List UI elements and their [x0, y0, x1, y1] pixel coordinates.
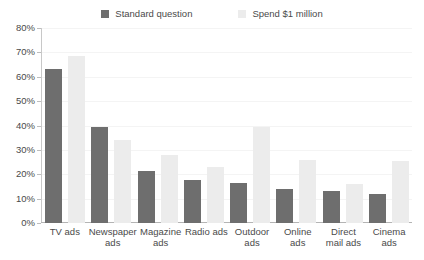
bar[interactable]: [323, 191, 340, 223]
y-tick-mark: [37, 199, 41, 200]
bar-group: [227, 28, 273, 223]
bar-group: [366, 28, 412, 223]
bar[interactable]: [276, 189, 293, 223]
bar-group: [135, 28, 181, 223]
x-axis-label: Outdoor ads: [229, 226, 275, 258]
y-tick-mark: [37, 174, 41, 175]
bar[interactable]: [253, 127, 270, 223]
y-tick-mark: [37, 126, 41, 127]
bar[interactable]: [346, 184, 363, 223]
y-tick-label: 20%: [16, 170, 35, 180]
y-tick-label: 70%: [16, 48, 35, 58]
bar[interactable]: [45, 69, 62, 223]
y-tick-label: 50%: [16, 96, 35, 106]
y-tick-label: 40%: [16, 121, 35, 131]
legend-item-spend-1-million: Spend $1 million: [238, 9, 322, 19]
bar[interactable]: [230, 183, 247, 223]
legend-swatch-spend-1-million: [238, 10, 246, 18]
x-axis-label: Direct mail ads: [321, 226, 367, 258]
bar[interactable]: [392, 161, 409, 223]
x-axis-label: Radio ads: [183, 226, 229, 258]
y-tick-label: 10%: [16, 194, 35, 204]
y-tick-label: 60%: [16, 72, 35, 82]
y-tick-mark: [37, 28, 41, 29]
bar-group: [88, 28, 134, 223]
legend-item-standard-question: Standard question: [101, 9, 192, 19]
bar[interactable]: [207, 167, 224, 223]
y-tick-mark: [37, 101, 41, 102]
bar[interactable]: [114, 140, 131, 223]
bar-group: [320, 28, 366, 223]
plot-area: 80%70%60%50%40%30%20%10%0%: [41, 28, 412, 223]
bar[interactable]: [138, 171, 155, 223]
x-axis-label: Cinema ads: [366, 226, 412, 258]
x-axis-label: Online ads: [275, 226, 321, 258]
bar-group: [273, 28, 319, 223]
bar[interactable]: [91, 127, 108, 223]
bar[interactable]: [299, 160, 316, 223]
bar[interactable]: [161, 155, 178, 223]
legend-swatch-standard-question: [101, 10, 109, 18]
bars-layer: [42, 28, 412, 223]
bar-group: [42, 28, 88, 223]
x-axis-label: Newspaper ads: [88, 226, 138, 258]
bar[interactable]: [369, 194, 386, 223]
legend-label-standard-question: Standard question: [115, 9, 192, 19]
bar[interactable]: [184, 180, 201, 223]
legend-label-spend-1-million: Spend $1 million: [252, 9, 322, 19]
bar-group: [181, 28, 227, 223]
y-tick-mark: [37, 77, 41, 78]
chart-legend: Standard question Spend $1 million: [0, 6, 424, 22]
x-axis-label: TV ads: [42, 226, 88, 258]
y-tick-mark: [37, 52, 41, 53]
bar[interactable]: [68, 56, 85, 223]
y-tick-label: 80%: [16, 23, 35, 33]
y-tick-label: 30%: [16, 145, 35, 155]
y-tick-label: 0%: [21, 218, 35, 228]
x-axis-labels: TV adsNewspaper adsMagazine adsRadio ads…: [42, 226, 412, 258]
bar-chart: Standard question Spend $1 million 80%70…: [0, 0, 424, 260]
x-axis-label: Magazine ads: [138, 226, 184, 258]
y-tick-mark: [37, 223, 41, 224]
y-tick-mark: [37, 150, 41, 151]
